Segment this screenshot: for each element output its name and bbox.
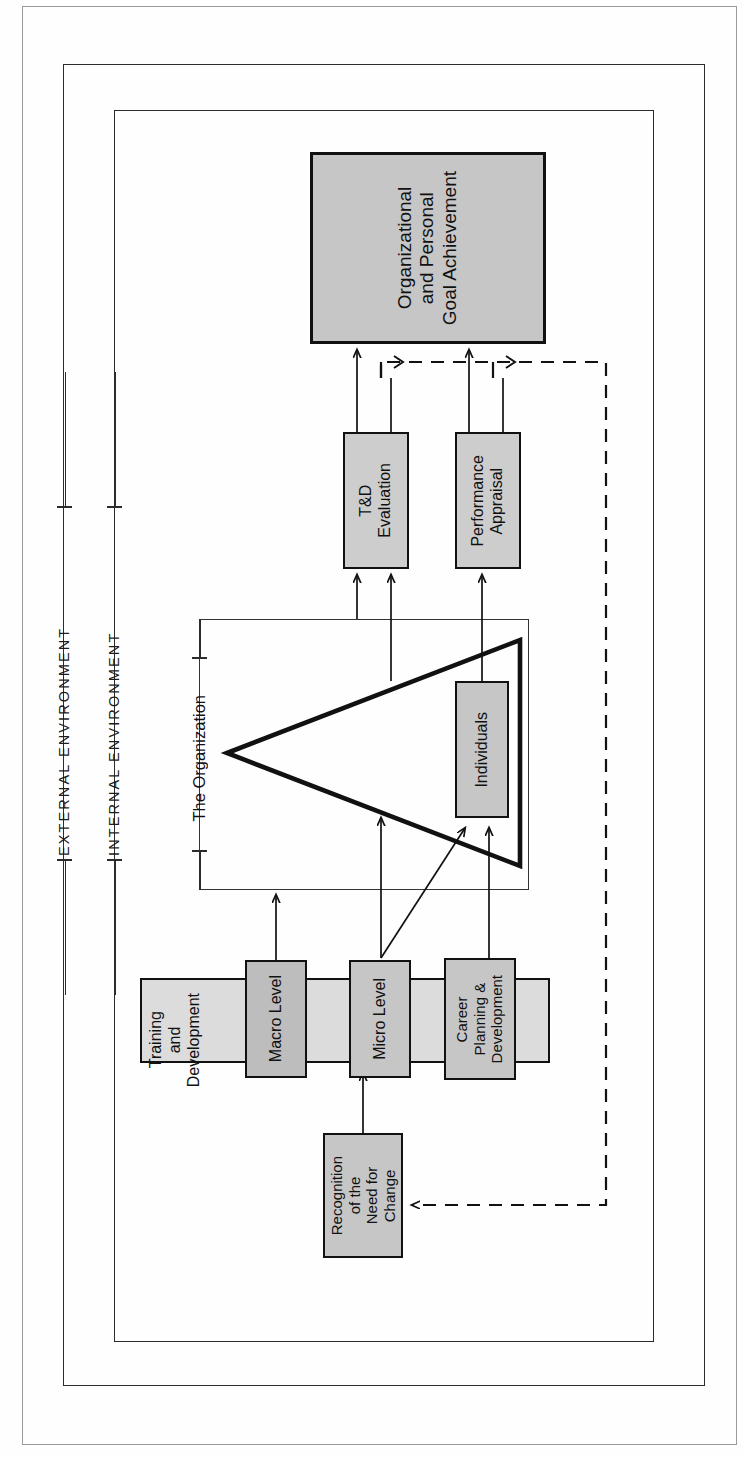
external-environment-label: EXTERNAL ENVIRONMENT: [56, 512, 72, 856]
node-individuals-label: Individuals: [473, 712, 492, 788]
node-macro-level[interactable]: Macro Level: [245, 960, 307, 1078]
node-performance-appraisal-label: Performance Appraisal: [469, 455, 507, 547]
node-recognition-need-for-change-label: Recognition of the Need for Change: [328, 1156, 399, 1235]
node-individuals[interactable]: Individuals: [455, 681, 509, 818]
node-micro-level[interactable]: Micro Level: [349, 960, 411, 1078]
training-development-label: Training and Development: [146, 993, 204, 1087]
organization-bracket-top-cap: [192, 657, 207, 659]
node-recognition-need-for-change[interactable]: Recognition of the Need for Change: [323, 1133, 403, 1258]
node-micro-level-label: Micro Level: [371, 978, 390, 1060]
node-td-evaluation-label: T&D Evaluation: [357, 463, 395, 538]
node-career-planning-development-label: Career Planning & Development: [453, 975, 506, 1063]
organization-bracket-bottom: [199, 850, 201, 890]
node-performance-appraisal[interactable]: Performance Appraisal: [455, 432, 521, 569]
organization-bracket-top: [199, 619, 201, 659]
training-development-label-wrap: Training and Development: [152, 980, 198, 1100]
node-td-evaluation[interactable]: T&D Evaluation: [343, 432, 409, 569]
organization-label-wrap: The Organization: [186, 660, 212, 856]
node-macro-level-label: Macro Level: [267, 975, 286, 1062]
node-goal-achievement[interactable]: Organizational and Personal Goal Achieve…: [310, 152, 546, 344]
node-goal-achievement-label: Organizational and Personal Goal Achieve…: [394, 171, 461, 325]
diagram-canvas: EXTERNAL ENVIRONMENT INTERNAL ENVIRONMEN…: [0, 0, 743, 1458]
internal-environment-label: INTERNAL ENVIRONMENT: [106, 512, 122, 856]
node-career-planning-development[interactable]: Career Planning & Development: [444, 958, 516, 1080]
organization-label: The Organization: [190, 695, 209, 822]
